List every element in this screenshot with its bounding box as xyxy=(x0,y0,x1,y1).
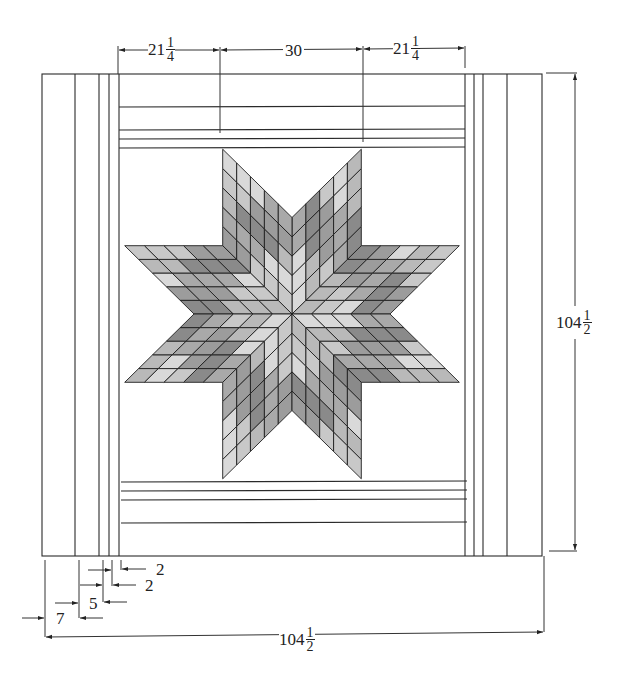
top-dimension-label-left: 2114 xyxy=(148,36,175,63)
dimension-fraction: 12 xyxy=(306,626,315,653)
right-dimension-label: 10412 xyxy=(556,306,592,339)
border-width-label-7: 7 xyxy=(56,610,65,627)
bottom-border-strips xyxy=(121,481,467,523)
dimension-whole: 104 xyxy=(556,313,582,332)
dimension-whole: 104 xyxy=(279,630,305,649)
border-width-label-5: 5 xyxy=(89,595,98,612)
dimension-whole: 21 xyxy=(393,39,410,58)
top-dimension-label-center: 30 xyxy=(283,41,304,59)
dimension-whole: 21 xyxy=(148,40,165,59)
bottom-dimension-label: 10412 xyxy=(279,626,315,653)
quilt-diagram xyxy=(0,0,623,690)
right-border-strips xyxy=(465,74,507,556)
dimension-whole: 30 xyxy=(285,41,302,60)
top-border-strips xyxy=(119,106,465,148)
bottom-dimension-lines xyxy=(22,556,544,637)
dimension-fraction: 12 xyxy=(583,309,592,336)
lone-star-block xyxy=(125,149,460,479)
top-dimension-label-right: 2114 xyxy=(393,35,420,62)
left-border-strips xyxy=(75,74,119,556)
border-width-label-2-outer: 2 xyxy=(145,577,154,594)
border-width-label-2-inner: 2 xyxy=(156,561,165,578)
dimension-fraction: 14 xyxy=(166,36,175,63)
dimension-fraction: 14 xyxy=(411,35,420,62)
